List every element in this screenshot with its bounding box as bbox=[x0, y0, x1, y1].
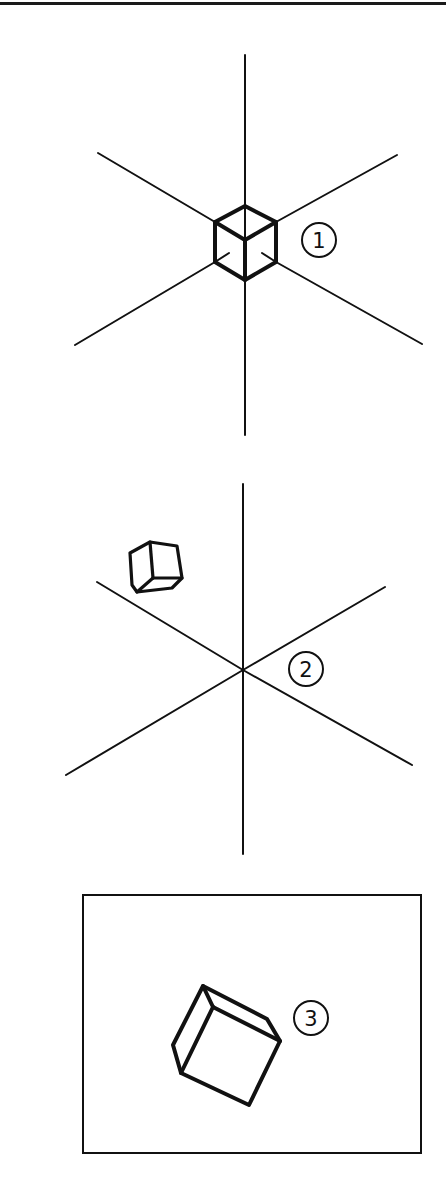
panel-2: 2 bbox=[66, 484, 412, 854]
axis-stub-left bbox=[215, 253, 229, 262]
step-label-1: 1 bbox=[302, 223, 336, 257]
axis-stub-right bbox=[262, 253, 276, 262]
step-number: 1 bbox=[312, 229, 325, 253]
panel-1: 1 bbox=[75, 55, 422, 435]
axis-lower-left bbox=[66, 670, 243, 775]
isometric-rotation-diagram: 1 2 3 bbox=[0, 0, 446, 1195]
axis-upper-left bbox=[98, 153, 215, 222]
step-number: 3 bbox=[304, 1007, 317, 1031]
step-label-3: 3 bbox=[294, 1001, 328, 1035]
step-number: 2 bbox=[299, 658, 312, 682]
step-label-2: 2 bbox=[289, 652, 323, 686]
axis-upper-right bbox=[276, 155, 397, 222]
cube-2 bbox=[130, 542, 182, 592]
axis-lower-right bbox=[276, 262, 422, 344]
panel-3: 3 bbox=[83, 895, 421, 1153]
axis-upper-left bbox=[97, 582, 243, 670]
axis-lower-left bbox=[75, 262, 215, 345]
axis-lower-right bbox=[243, 670, 412, 765]
picture-frame bbox=[83, 895, 421, 1153]
cube-3 bbox=[173, 986, 280, 1105]
